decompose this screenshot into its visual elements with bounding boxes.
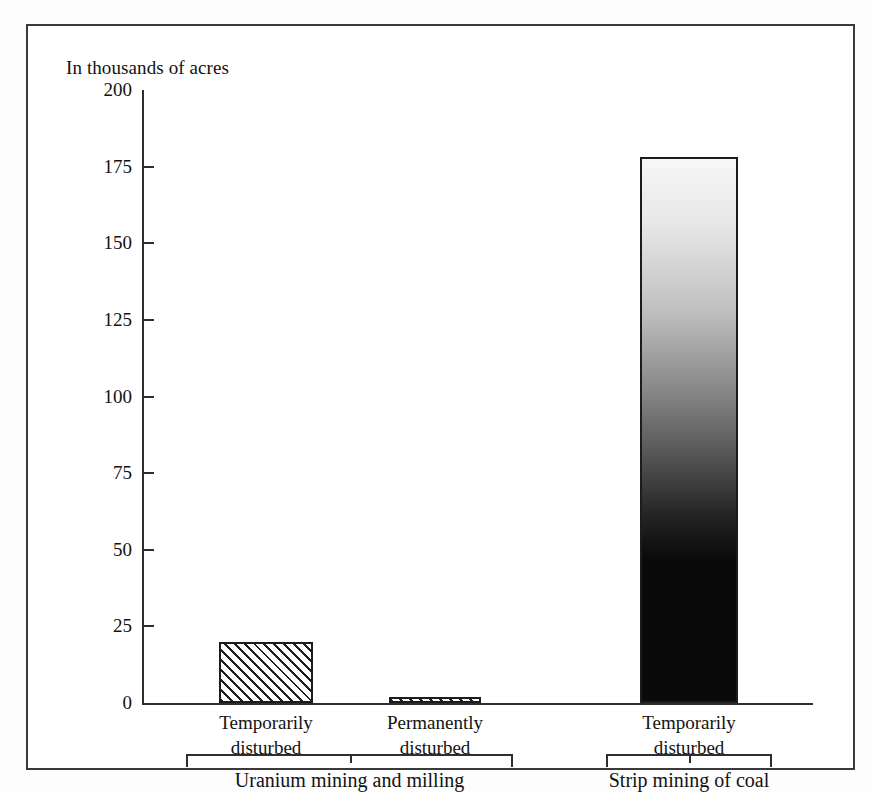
y-tick-label-75: 75: [28, 460, 132, 486]
group-bracket-uranium: [186, 754, 513, 767]
bar-caption-uranium-permanently: Permanently disturbed: [355, 710, 515, 760]
y-axis-line: [142, 90, 144, 705]
y-tick-label-150: 150: [28, 230, 132, 256]
figure-canvas: In thousands of acres 200 175 150 125 10…: [0, 0, 872, 793]
bar-caption-strip-coal-temporarily: Temporarily disturbed: [609, 710, 769, 760]
group-bracket-strip-coal: [606, 754, 772, 767]
y-tick-mark-25: [142, 625, 154, 627]
group-label-strip-coal: Strip mining of coal: [584, 767, 794, 793]
y-tick-label-175: 175: [28, 154, 132, 180]
y-tick-label-100: 100: [28, 384, 132, 410]
y-tick-label-0: 0: [28, 690, 132, 716]
y-tick-label-50: 50: [28, 537, 132, 563]
y-axis-unit-label: In thousands of acres: [66, 57, 229, 79]
y-tick-mark-125: [142, 319, 154, 321]
y-tick-mark-150: [142, 242, 154, 244]
group-bracket-nub-uranium: [350, 754, 352, 763]
bar-strip-coal-temporarily-disturbed[interactable]: [640, 157, 738, 703]
y-tick-mark-50: [142, 549, 154, 551]
bar-uranium-temporarily-disturbed[interactable]: [219, 642, 313, 703]
y-tick-mark-175: [142, 166, 154, 168]
y-tick-label-125: 125: [28, 307, 132, 333]
figure-frame: In thousands of acres 200 175 150 125 10…: [26, 24, 855, 770]
y-tick-mark-100: [142, 396, 154, 398]
x-axis-baseline: [142, 703, 813, 705]
group-label-uranium: Uranium mining and milling: [186, 767, 513, 793]
group-bracket-nub-strip-coal: [689, 754, 691, 763]
y-tick-label-25: 25: [28, 613, 132, 639]
bar-caption-uranium-temporarily: Temporarily disturbed: [186, 710, 346, 760]
y-tick-mark-75: [142, 472, 154, 474]
y-tick-label-200: 200: [28, 77, 132, 103]
bar-uranium-permanently-disturbed[interactable]: [389, 697, 481, 703]
